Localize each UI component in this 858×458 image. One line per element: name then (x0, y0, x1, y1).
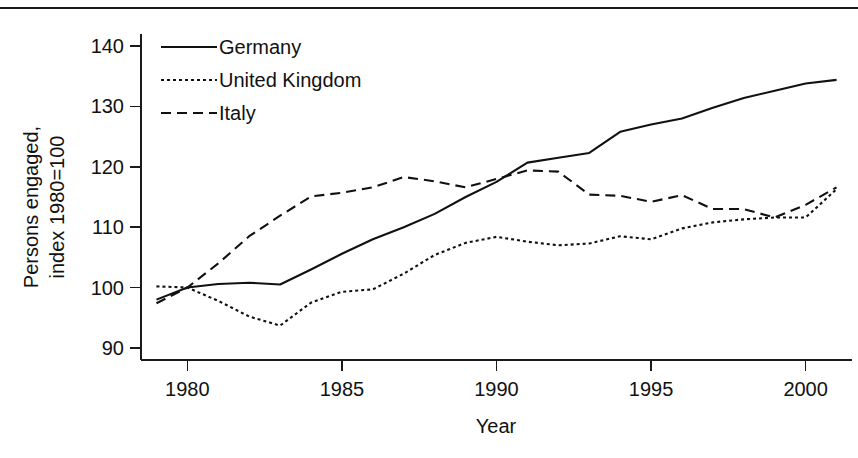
y-tick-label-100: 100 (91, 277, 124, 299)
y-axis-ticks (130, 46, 141, 348)
y-axis-title-line-1: Persons engaged, (20, 126, 42, 288)
data-series-group (156, 80, 836, 326)
x-tick-label-1995: 1995 (629, 378, 674, 400)
y-tick-label-120: 120 (91, 156, 124, 178)
x-axis-title: Year (476, 415, 517, 437)
legend-label-germany: Germany (219, 36, 301, 58)
x-axis: 19801985199019952000 (141, 360, 852, 400)
y-axis-title-line-2: index 1980=100 (46, 136, 68, 279)
y-tick-label-130: 130 (91, 95, 124, 117)
x-tick-label-2000: 2000 (783, 378, 828, 400)
chart-figure: 90100110120130140 19801985199019952000 G… (0, 0, 858, 458)
y-tick-label-90: 90 (102, 337, 124, 359)
x-tick-label-1985: 1985 (320, 378, 365, 400)
y-tick-label-140: 140 (91, 35, 124, 57)
legend-label-italy: Italy (219, 102, 256, 124)
line-chart-canvas: 90100110120130140 19801985199019952000 G… (0, 0, 858, 458)
x-axis-ticks (187, 360, 805, 371)
x-axis-tick-labels: 19801985199019952000 (165, 378, 828, 400)
x-tick-label-1980: 1980 (165, 378, 210, 400)
y-axis: 90100110120130140 (91, 34, 141, 360)
series-line-germany (156, 80, 836, 300)
chart-legend: GermanyUnited KingdomItaly (161, 36, 361, 124)
y-tick-label-110: 110 (92, 216, 124, 238)
y-axis-tick-labels: 90100110120130140 (91, 35, 124, 359)
legend-label-united-kingdom: United Kingdom (219, 69, 361, 91)
x-tick-label-1990: 1990 (474, 378, 519, 400)
